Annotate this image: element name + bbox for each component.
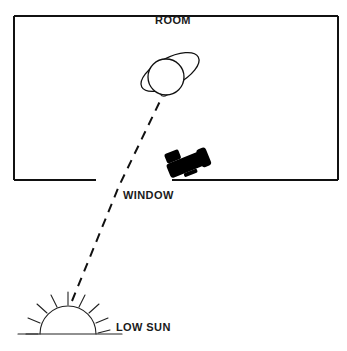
sun-ray-2 <box>28 318 40 323</box>
sun-ray-8 <box>96 318 108 323</box>
camera-figure <box>162 139 213 182</box>
sun-rays <box>26 292 110 334</box>
room-label: ROOM <box>155 14 191 26</box>
low-sun-label: LOW SUN <box>116 321 171 333</box>
sun-disc-semicircle <box>40 306 96 334</box>
low-sun-figure <box>18 292 122 334</box>
sun-ray-6 <box>79 295 85 307</box>
sun-ray-9 <box>98 330 110 333</box>
head-circle <box>148 59 184 95</box>
person-figure <box>135 45 205 100</box>
sun-ray-3 <box>37 304 47 313</box>
sun-ray-7 <box>89 304 99 313</box>
window-label: WINDOW <box>123 189 174 201</box>
diagram-canvas: ROOM WINDOW <box>0 0 347 351</box>
sun-ray-4 <box>51 295 57 307</box>
room-sunlight-schematic: ROOM WINDOW <box>0 0 347 351</box>
